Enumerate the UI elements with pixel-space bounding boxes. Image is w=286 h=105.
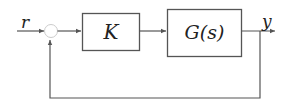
block-diagram: r K G(s) y	[0, 0, 286, 105]
plant-label: G(s)	[185, 21, 225, 43]
input-label: r	[21, 12, 30, 32]
summing-junction	[45, 25, 58, 38]
output-label: y	[261, 11, 272, 31]
controller-label: K	[103, 20, 120, 44]
